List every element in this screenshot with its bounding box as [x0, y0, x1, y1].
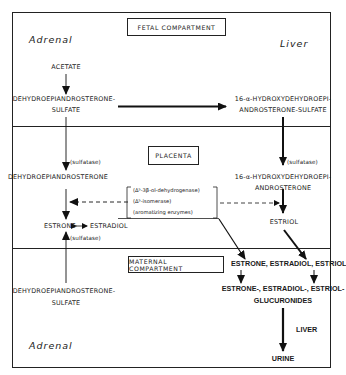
acetate-label: ACETATE	[51, 63, 80, 71]
dhea-label: DEHYDROEPIANDROSTERONE	[8, 173, 108, 181]
sulfatase-left-label: (sulfatase)	[70, 158, 101, 166]
fetal-dheas-line1: DEHYDROEPIANDROSTERONE-	[13, 95, 116, 103]
16oh-dhea-line1: 16-α-HYDROXYDEHYDROEPI-	[235, 173, 332, 181]
fetal-dheas-line2: SULFATE	[52, 106, 81, 114]
enzyme-isomerase: (Δ⁵-isomerase)	[133, 197, 171, 205]
sulfatase-bottom-label: (sulfatase)	[70, 234, 101, 242]
16oh-dheas-line1: 16-α-HYDROXYDEHYDROEPI-	[235, 95, 332, 103]
fetal-liver-label: Liver	[280, 38, 308, 49]
estrone-label: ESTRONE	[44, 222, 76, 230]
glucuronides-line2: GLUCURONIDES	[254, 297, 312, 305]
enzyme-bracket-left	[127, 187, 131, 218]
16oh-dheas-line2: ANDROSTERONE-SULFATE	[239, 106, 326, 114]
enzyme-aromatizing: (aromatizing enzymes)	[133, 208, 193, 216]
arrow-estriol-to-maternal	[284, 230, 306, 259]
maternal-adrenal-label: Adrenal	[29, 340, 73, 351]
16oh-dhea-line2: ANDROSTERONE	[255, 184, 311, 192]
urine-label: URINE	[272, 355, 294, 363]
enzyme-bracket-right	[213, 187, 217, 218]
fetal-compartment-text: FETAL COMPARTMENT	[138, 24, 216, 31]
maternal-dheas-line2: SULFATE	[52, 299, 81, 307]
maternal-compartment-text: MATERNAL COMPARTMENT	[129, 258, 223, 272]
estradiol-label: ESTRADIOL	[90, 222, 128, 230]
maternal-estrogens-label: ESTRONE, ESTRADIOL, ESTRIOL	[231, 260, 346, 268]
fetal-adrenal-label: Adrenal	[29, 34, 73, 45]
glucuronides-line1: ESTRONE-, ESTRADIOL-, ESTRIOL-	[222, 285, 345, 293]
placenta-label: PLACENTA	[148, 146, 199, 165]
maternal-compartment-label: MATERNAL COMPARTMENT	[128, 256, 224, 273]
sulfatase-right-label: (sulfatase)	[287, 158, 318, 166]
arrow-placenta-to-maternal-estrogens	[219, 219, 245, 259]
fetal-compartment-label: FETAL COMPARTMENT	[127, 18, 226, 36]
maternal-dheas-line1: DEHYDROEPIANDROSTERONE-	[13, 287, 116, 295]
estriol-label: ESTRIOL	[270, 218, 298, 226]
enzyme-dehydrogenase: (Δ⁵-3β-ol-dehydrogenase)	[133, 186, 200, 194]
maternal-liver-label: LIVER	[296, 326, 317, 334]
placenta-text: PLACENTA	[155, 152, 192, 159]
